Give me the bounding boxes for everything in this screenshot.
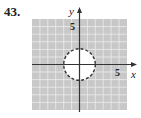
x-tick-5: 5 xyxy=(115,67,120,78)
x-axis-arrow-icon xyxy=(131,62,137,67)
x-axis-label: x xyxy=(130,68,136,80)
y-axis-label: y xyxy=(68,5,74,17)
y-tick-5: 5 xyxy=(70,21,75,32)
graph: y x 5 5 xyxy=(0,0,141,118)
y-axis-arrow-icon xyxy=(77,7,82,13)
